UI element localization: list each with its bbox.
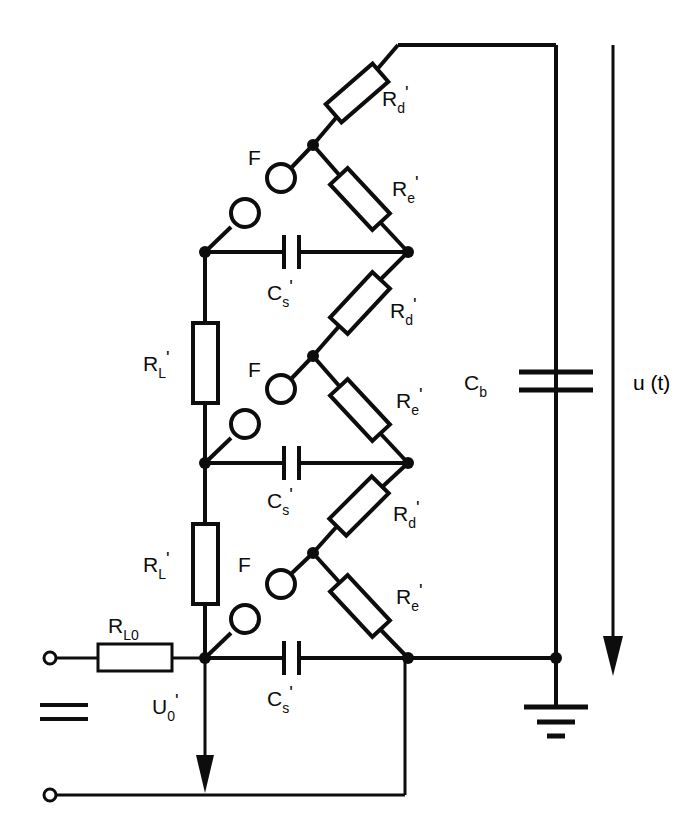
input-terminal-negative[interactable] <box>44 789 56 801</box>
node-stage1-apex <box>307 139 319 151</box>
resistor-rl0 <box>98 644 172 671</box>
node-stage1-right <box>402 246 414 258</box>
spark-gap-sphere-upper-stage3 <box>267 570 295 598</box>
node-stage2-right <box>402 457 414 469</box>
circuit-diagram: Rd' Re' F Cs' Rd' Re' F Cs' Rd' R <box>0 0 697 837</box>
node-stage2-apex <box>307 350 319 362</box>
resistor-rl-stage2 <box>193 524 218 604</box>
spark-gap-sphere-lower-stage2 <box>231 410 259 438</box>
node-stage3-left <box>199 652 211 664</box>
spark-gap-sphere-upper-stage1 <box>267 164 295 192</box>
schematic-canvas: Rd' Re' F Cs' Rd' Re' F Cs' Rd' R <box>0 0 697 837</box>
spark-gap-sphere-lower-stage3 <box>231 605 259 633</box>
label-ut: u (t) <box>633 371 670 394</box>
diagram-background <box>0 0 697 837</box>
node-stage3-right <box>402 652 414 664</box>
node-stage1-left <box>199 246 211 258</box>
node-stage3-apex <box>307 547 319 559</box>
node-stage2-left <box>199 457 211 469</box>
input-terminal-positive[interactable] <box>44 652 56 664</box>
node-ground <box>550 652 562 664</box>
label-f-stage3: F <box>238 553 251 576</box>
label-f-stage1: F <box>248 146 261 169</box>
spark-gap-sphere-lower-stage1 <box>231 199 259 227</box>
spark-gap-sphere-upper-stage2 <box>267 375 295 403</box>
resistor-rl-stage1 <box>193 323 218 403</box>
label-f-stage2: F <box>248 358 261 381</box>
